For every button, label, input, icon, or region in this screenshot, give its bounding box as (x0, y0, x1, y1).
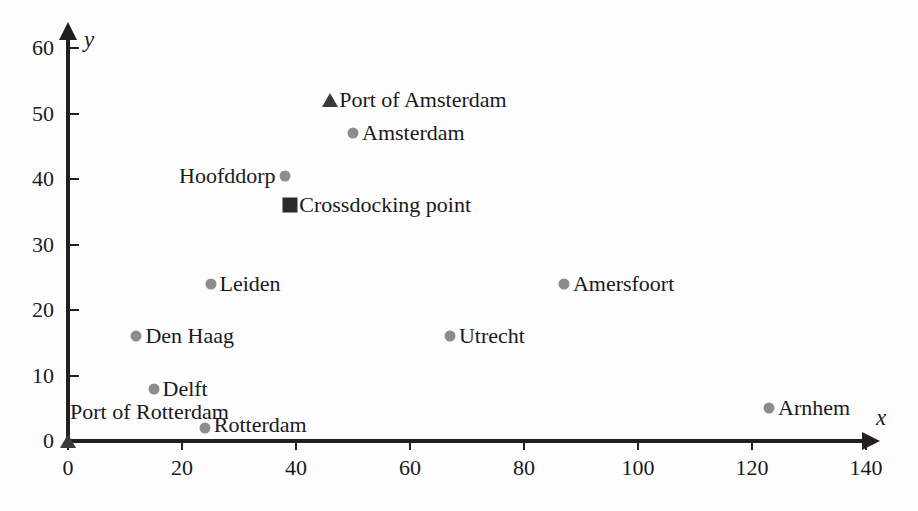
scatter-plot: x y 020406080100120140 0102030405060 Rot… (0, 0, 918, 511)
data-point-label: Amersfoort (573, 272, 674, 296)
data-point-marker (348, 128, 359, 139)
x-axis-label: x (876, 406, 886, 429)
x-tick-label: 100 (622, 457, 655, 479)
y-tick-label: 60 (8, 37, 54, 59)
y-tick-mark (70, 47, 79, 49)
x-tick-label: 140 (850, 457, 883, 479)
page-caption-strip (0, 498, 918, 511)
x-tick-label: 40 (285, 457, 307, 479)
data-point-marker (131, 331, 142, 342)
data-point-marker (322, 93, 338, 107)
y-axis-arrow-icon (59, 22, 77, 40)
data-point-marker (148, 383, 159, 394)
data-point-label: Port of Rotterdam (70, 400, 229, 424)
data-point-label: Crossdocking point (299, 193, 471, 217)
data-point-marker (558, 278, 569, 289)
x-tick-mark (181, 441, 183, 450)
x-tick-label: 20 (171, 457, 193, 479)
y-tick-label: 10 (8, 365, 54, 387)
data-point-marker (444, 331, 455, 342)
data-point-marker (199, 422, 210, 433)
y-tick-mark (70, 375, 79, 377)
y-tick-label: 20 (8, 299, 54, 321)
data-point-label: Arnhem (778, 396, 850, 420)
data-point-label: Leiden (220, 272, 281, 296)
data-point-marker (279, 170, 290, 181)
data-point-label: Port of Amsterdam (339, 88, 506, 112)
data-point-marker (205, 278, 216, 289)
y-tick-mark (70, 309, 79, 311)
x-tick-mark (637, 441, 639, 450)
y-tick-label: 50 (8, 103, 54, 125)
data-point-label: Amsterdam (362, 121, 465, 145)
y-tick-label: 30 (8, 234, 54, 256)
x-tick-label: 60 (399, 457, 421, 479)
data-point-marker (60, 434, 76, 448)
x-tick-mark (751, 441, 753, 450)
x-tick-mark (409, 441, 411, 450)
x-tick-mark (295, 441, 297, 450)
y-axis-line (66, 40, 70, 441)
y-axis-label: y (84, 28, 94, 51)
y-tick-label: 0 (8, 430, 54, 452)
x-tick-mark (865, 441, 867, 450)
x-tick-label: 80 (513, 457, 535, 479)
x-tick-label: 120 (736, 457, 769, 479)
data-point-label: Hoofddorp (179, 164, 276, 188)
x-tick-mark (523, 441, 525, 450)
y-tick-mark (70, 113, 79, 115)
data-point-label: Utrecht (459, 324, 525, 348)
data-point-label: Delft (163, 377, 208, 401)
data-point-label: Den Haag (145, 324, 234, 348)
y-tick-mark (70, 178, 79, 180)
x-tick-label: 0 (63, 457, 74, 479)
y-tick-mark (70, 244, 79, 246)
y-tick-label: 40 (8, 168, 54, 190)
data-point-marker (283, 198, 298, 213)
data-point-marker (764, 403, 775, 414)
x-axis-line (68, 439, 868, 443)
